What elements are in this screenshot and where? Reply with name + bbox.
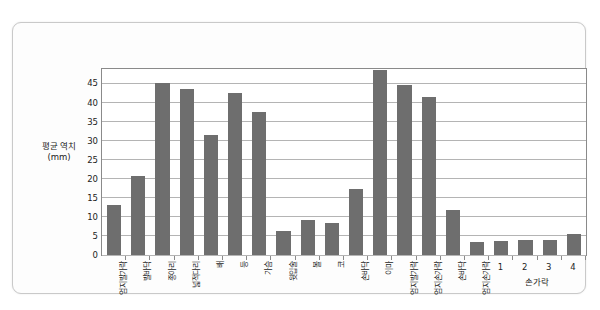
y-axis-tick-label: 25 bbox=[87, 155, 98, 165]
x-axis-label: 윗입술 bbox=[287, 261, 298, 281]
y-axis-tick-label: 40 bbox=[87, 98, 98, 108]
bar bbox=[252, 112, 266, 255]
bar bbox=[131, 176, 145, 255]
x-axis-label: 볼 bbox=[311, 261, 322, 268]
x-axis-tick bbox=[391, 256, 392, 260]
bar bbox=[567, 234, 581, 255]
x-axis-label: 등 bbox=[238, 261, 249, 268]
x-axis-label: 4 bbox=[563, 262, 583, 272]
x-axis-tick bbox=[198, 256, 199, 260]
x-axis-tick bbox=[319, 256, 320, 260]
x-axis-label: 2 bbox=[515, 262, 535, 272]
x-axis-label: 손바닥 bbox=[456, 261, 467, 281]
x-axis-tick bbox=[464, 256, 465, 260]
y-axis-tick-label: 30 bbox=[87, 136, 98, 146]
x-axis-tick bbox=[149, 256, 150, 260]
x-axis-tick bbox=[270, 256, 271, 260]
x-axis-label: 발바닥 bbox=[141, 261, 152, 281]
y-axis-title: 평균 역치 (mm) bbox=[23, 141, 95, 163]
x-axis-tick bbox=[295, 256, 296, 260]
y-axis-title-main: 평균 역치 bbox=[42, 141, 77, 151]
x-axis-label: 이마 bbox=[383, 261, 394, 275]
x-axis-tick bbox=[367, 256, 368, 260]
x-axis-label: 엄지발가락 bbox=[117, 261, 128, 295]
bar bbox=[107, 205, 121, 255]
bar bbox=[228, 93, 242, 255]
y-axis-tick-label: 15 bbox=[87, 193, 98, 203]
x-axis-tick bbox=[440, 256, 441, 260]
x-axis-group-label-finger: 손가락 bbox=[488, 275, 585, 287]
x-axis-label: 넓적다리 bbox=[190, 261, 201, 288]
bar bbox=[180, 89, 194, 255]
bar bbox=[422, 97, 436, 255]
chart-figure-frame: 평균 역치 (mm) 051015202530354045 엄지발가락발바닥종아… bbox=[12, 22, 586, 294]
x-axis-label: 종아리 bbox=[166, 261, 177, 281]
x-axis-tick bbox=[416, 256, 417, 260]
bar bbox=[397, 85, 411, 255]
bar bbox=[470, 242, 484, 255]
bar bbox=[301, 220, 315, 255]
y-axis-tick-label: 45 bbox=[87, 78, 98, 88]
x-axis-tick bbox=[222, 256, 223, 260]
x-axis-label: 1 bbox=[490, 262, 510, 272]
bar bbox=[204, 135, 218, 255]
bars-layer bbox=[102, 69, 586, 255]
bar bbox=[373, 70, 387, 255]
x-axis-labels: 엄지발가락발바닥종아리넓적다리배등가슴윗입술볼코손바닥이마엄지발가락엄지손가락손… bbox=[101, 261, 587, 310]
bar bbox=[276, 231, 290, 255]
y-axis-tick-label: 35 bbox=[87, 117, 98, 127]
bar bbox=[446, 210, 460, 255]
x-axis-label: 3 bbox=[539, 262, 559, 272]
x-axis-tick bbox=[174, 256, 175, 260]
x-axis-tick bbox=[512, 256, 513, 260]
bar bbox=[543, 240, 557, 255]
plot-area: 051015202530354045 bbox=[101, 68, 587, 256]
bar bbox=[325, 223, 339, 255]
x-axis-tick bbox=[343, 256, 344, 260]
bar bbox=[349, 189, 363, 255]
x-axis-tick bbox=[585, 256, 586, 260]
x-axis-label: 엄지손가락 bbox=[432, 261, 443, 295]
x-axis-tick bbox=[488, 256, 489, 260]
y-axis-tick-label: 20 bbox=[87, 174, 98, 184]
x-axis-label: 엄지발가락 bbox=[408, 261, 419, 295]
x-axis-tick bbox=[537, 256, 538, 260]
y-axis-title-unit: (mm) bbox=[23, 152, 95, 163]
x-axis-tick bbox=[561, 256, 562, 260]
bar bbox=[518, 240, 532, 255]
x-axis-tick bbox=[125, 256, 126, 260]
x-axis-label: 배 bbox=[214, 261, 225, 268]
x-axis-tick bbox=[246, 256, 247, 260]
bar bbox=[155, 83, 169, 255]
y-axis-tick-label: 0 bbox=[93, 250, 98, 260]
x-axis-label: 가슴 bbox=[262, 261, 273, 275]
y-axis-tick-label: 10 bbox=[87, 212, 98, 222]
x-axis-label: 손바닥 bbox=[359, 261, 370, 281]
y-axis-tick-label: 5 bbox=[93, 231, 98, 241]
x-axis-label: 코 bbox=[335, 261, 346, 268]
bar bbox=[494, 241, 508, 255]
